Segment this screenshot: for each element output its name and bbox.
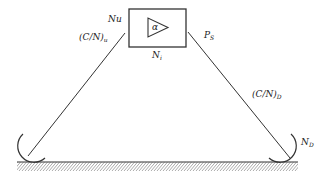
receiver-noise-sub: D — [309, 141, 314, 148]
internal-noise-text: N — [152, 50, 160, 60]
uplink-dish-icon — [18, 134, 45, 162]
downlink-cn-text: (C/N) — [252, 89, 277, 99]
uplink-cn-text: (C/N) — [79, 32, 104, 42]
downlink-cn-label: (C/N)D — [252, 90, 282, 100]
satellite-link-diagram: α Nu Ni PS (C/N)u (C/N)D ND — [0, 0, 330, 183]
internal-noise-sub: i — [160, 54, 162, 61]
uplink-path — [28, 33, 125, 156]
downlink-cn-sub: D — [277, 93, 282, 100]
uplink-noise-text: Nu — [108, 14, 122, 24]
uplink-noise-label: Nu — [108, 15, 122, 24]
ground-hatching — [17, 162, 298, 171]
gain-symbol-text: α — [152, 22, 158, 32]
satellite-power-sub: S — [210, 34, 214, 41]
receiver-noise-label: ND — [301, 138, 314, 148]
gain-symbol: α — [152, 23, 158, 32]
uplink-cn-label: (C/N)u — [79, 33, 108, 43]
receiver-noise-text: N — [301, 137, 309, 147]
uplink-cn-sub: u — [104, 36, 108, 43]
internal-noise-label: Ni — [152, 51, 162, 61]
satellite-power-label: PS — [204, 31, 214, 41]
